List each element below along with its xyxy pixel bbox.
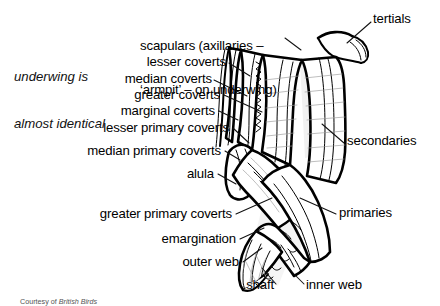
label-marginal-coverts: marginal coverts bbox=[30, 104, 215, 119]
label-emargination: emargination bbox=[80, 232, 236, 247]
leader-scapulars bbox=[285, 38, 301, 50]
label-median-primary-coverts: median primary coverts bbox=[8, 144, 221, 159]
credit-prefix: Courtesy of bbox=[20, 297, 59, 306]
label-greater-coverts: greater coverts bbox=[40, 88, 220, 103]
label-inner-web: inner web bbox=[306, 278, 362, 293]
label-primaries: primaries bbox=[339, 206, 392, 221]
label-lesser-primary-coverts: lesser primary coverts bbox=[20, 121, 229, 136]
credit-source: British Birds bbox=[59, 297, 97, 306]
label-alula: alula bbox=[100, 167, 214, 182]
label-scapulars-line1: scapulars (axillaries – bbox=[140, 39, 277, 54]
label-secondaries: secondaries bbox=[347, 134, 416, 149]
label-shaft: shaft bbox=[200, 278, 274, 293]
credit-line: Courtesy of British Birds bbox=[12, 288, 97, 306]
wing-topography-figure: .out { fill:#ffffff; stroke:#000000; str… bbox=[0, 0, 440, 306]
label-outer-web: outer web bbox=[100, 255, 239, 270]
secondaries-group bbox=[302, 57, 345, 183]
label-lesser-coverts: lesser coverts bbox=[60, 55, 226, 70]
label-median-coverts: median coverts bbox=[40, 72, 212, 87]
label-greater-primary-coverts: greater primary coverts bbox=[40, 207, 232, 222]
label-tertials: tertials bbox=[373, 12, 411, 27]
